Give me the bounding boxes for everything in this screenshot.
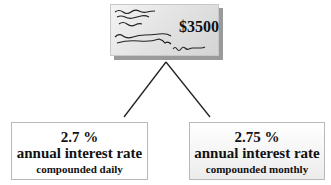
- option-monthly-compounding: compounded monthly: [190, 162, 324, 176]
- check-card: $3500: [110, 4, 219, 56]
- option-daily-compounding: compounded daily: [12, 162, 147, 176]
- option-monthly-box: 2.75 % annual interest rate compounded m…: [189, 122, 325, 180]
- option-daily-rate: 2.7 %: [12, 129, 147, 145]
- check-amount: $3500: [179, 18, 219, 36]
- option-monthly-rate: 2.75 %: [190, 129, 324, 145]
- option-monthly-label: annual interest rate: [190, 145, 324, 162]
- option-daily-box: 2.7 % annual interest rate compounded da…: [11, 122, 148, 180]
- option-daily-label: annual interest rate: [12, 145, 147, 162]
